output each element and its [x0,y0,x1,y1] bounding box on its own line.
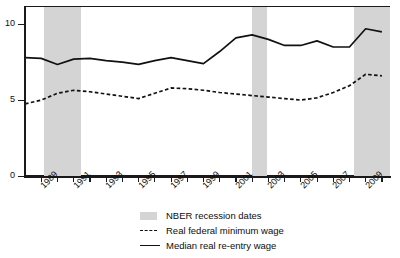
series-line [25,74,382,104]
legend-dashed-line-icon [140,230,157,231]
legend-label: Median real re-entry wage [166,241,276,251]
series-line [25,29,382,65]
y-axis-tick-label: 0 [0,171,15,180]
y-axis-tick [18,100,24,101]
legend-solid-line-icon [140,245,160,246]
legend-item-recession: NBER recession dates [140,208,284,223]
legend-item-minwage: Real federal minimum wage [140,223,284,238]
y-axis-tick [18,24,24,25]
y-axis-tick-label: 10 [0,19,15,28]
legend-swatch-dashed [140,230,166,231]
legend-item-reentry: Median real re-entry wage [140,238,284,253]
legend-label: NBER recession dates [166,211,262,221]
y-axis-tick-label: 5 [0,95,15,104]
y-axis-spine [24,6,26,177]
legend-swatch-solid [140,245,166,246]
legend-label: Real federal minimum wage [166,226,284,236]
y-axis-tick [18,176,24,177]
chart-legend: NBER recession datesReal federal minimum… [140,208,284,253]
chart-figure: 0510 19891991199319951997199920012003200… [0,0,400,258]
legend-swatch-band [140,212,166,220]
legend-recession-swatch [140,212,157,220]
